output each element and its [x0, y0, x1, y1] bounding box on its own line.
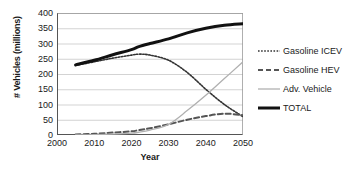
y-axis-tick-label: 100 — [38, 100, 53, 109]
y-axis-tick-label: 150 — [38, 85, 53, 94]
thick-solid-line-swatch — [258, 103, 280, 113]
y-axis-title: # Vehicles (millions) — [12, 0, 22, 122]
legend-item[interactable]: TOTAL — [258, 98, 358, 117]
x-axis-tick-label: 2010 — [84, 138, 104, 149]
data-series-group — [76, 24, 243, 135]
y-axis-tick-label: 250 — [38, 54, 53, 63]
legend-item[interactable]: Adv. Vehicle — [258, 79, 358, 98]
legend-item[interactable]: Gasoline ICEV — [258, 41, 358, 60]
y-axis-tick-label: 400 — [38, 9, 53, 18]
x-axis-title: Year — [57, 152, 243, 162]
series-line-gasoline-hev — [76, 114, 243, 135]
x-axis-tick-label: 2030 — [159, 138, 179, 149]
thin-solid-line-swatch — [258, 84, 280, 94]
series-line-adv-vehicle — [76, 62, 243, 135]
dashed-line-swatch — [258, 65, 280, 75]
y-axis-tick-label: 300 — [38, 39, 53, 48]
y-axis-tick-label: 200 — [38, 70, 53, 79]
y-axis-tick-labels: 050100150200250300350400 — [26, 13, 53, 135]
x-axis-tick-label: 2040 — [196, 138, 216, 149]
legend-item-label: Gasoline HEV — [283, 65, 340, 75]
chart-figure: # Vehicles (millions) 050100150200250300… — [0, 0, 359, 174]
plot-svg — [57, 13, 243, 135]
legend-item-label: TOTAL — [283, 103, 311, 113]
x-axis-tick-label: 2020 — [121, 138, 141, 149]
legend-item-label: Adv. Vehicle — [283, 84, 332, 94]
axis-lines — [57, 13, 243, 135]
x-axis-tick-labels: 200020102020203020402050 — [57, 138, 243, 152]
gridlines — [57, 14, 243, 121]
legend-item[interactable]: Gasoline HEV — [258, 60, 358, 79]
y-axis-tick-label: 50 — [43, 115, 53, 124]
x-axis-tick-label: 2050 — [233, 138, 253, 149]
series-line-gasoline-icev — [76, 54, 243, 117]
chart-legend: Gasoline ICEVGasoline HEVAdv. VehicleTOT… — [258, 41, 358, 117]
dotted-line-swatch — [258, 46, 280, 56]
x-axis-tick-label: 2000 — [47, 138, 67, 149]
plot-area — [57, 13, 243, 135]
legend-item-label: Gasoline ICEV — [283, 46, 342, 56]
y-axis-tick-label: 350 — [38, 24, 53, 33]
